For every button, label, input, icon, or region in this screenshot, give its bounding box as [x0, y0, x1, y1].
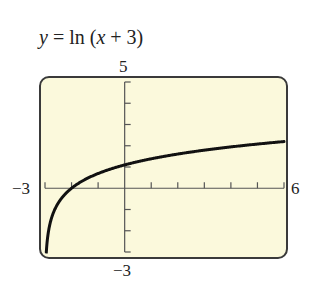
graph-screen [0, 0, 315, 289]
viewing-window-frame [40, 77, 287, 258]
